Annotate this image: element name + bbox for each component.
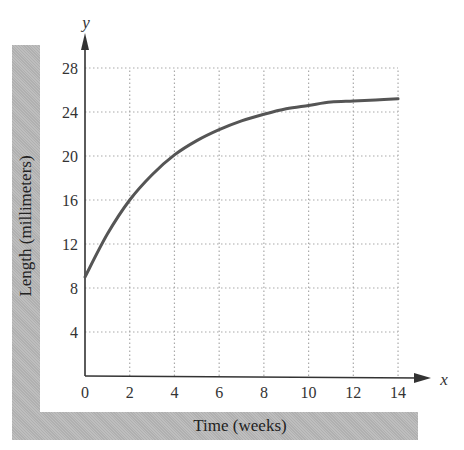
x-axis (85, 376, 420, 378)
x-tick-label: 6 (215, 384, 223, 401)
x-tick-label: 8 (260, 384, 268, 401)
x-tick-label: 4 (170, 384, 178, 401)
tick-labels: 02468101214481216202428 (62, 60, 406, 401)
x-axis-name: x (439, 370, 448, 389)
line-chart: yx 02468101214481216202428 (0, 0, 464, 450)
y-tick-label: 28 (62, 60, 78, 77)
x-tick-label: 10 (301, 384, 317, 401)
y-tick-label: 20 (62, 148, 78, 165)
y-tick-label: 16 (62, 192, 78, 209)
grid (85, 68, 398, 376)
x-tick-label: 2 (126, 384, 134, 401)
y-tick-label: 4 (70, 324, 78, 341)
y-tick-label: 12 (62, 236, 78, 253)
x-axis-arrow-icon (414, 373, 431, 383)
y-axis-arrow-icon (81, 33, 89, 50)
y-axis-name: y (80, 13, 90, 32)
y-tick-label: 8 (70, 280, 78, 297)
y-tick-label: 24 (62, 104, 78, 121)
x-tick-label: 12 (345, 384, 361, 401)
length-curve (85, 99, 398, 277)
x-tick-label: 14 (390, 384, 406, 401)
x-tick-label: 0 (81, 384, 89, 401)
